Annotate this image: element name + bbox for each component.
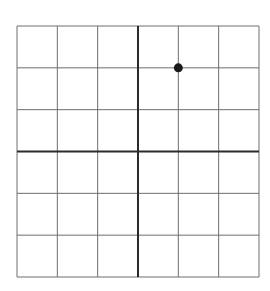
axes <box>17 26 259 277</box>
data-point <box>174 63 183 72</box>
coordinate-grid-chart <box>0 0 270 291</box>
data-points <box>174 63 183 72</box>
